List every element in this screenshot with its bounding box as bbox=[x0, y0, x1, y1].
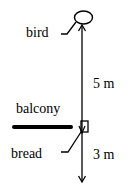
bread-label: bread bbox=[11, 147, 42, 161]
bird-label: bird bbox=[26, 26, 49, 40]
distance-5m-label: 5 m bbox=[93, 77, 114, 91]
bread-leader-line bbox=[61, 132, 81, 152]
bird-shape bbox=[75, 11, 93, 24]
distance-3m-label: 3 m bbox=[93, 148, 114, 162]
bird-leader-line bbox=[61, 22, 76, 34]
bird-bread-diagram: bird 5 m balcony bread 3 m bbox=[0, 0, 131, 186]
balcony-label: balcony bbox=[16, 102, 60, 116]
